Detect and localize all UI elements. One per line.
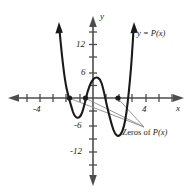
polynomial-curve	[60, 30, 134, 136]
curve-left-arrowhead	[55, 22, 62, 33]
y-tick-label-12: 12	[76, 40, 85, 49]
x-tick-label-minus-4: -4	[33, 105, 41, 114]
zeros-annotation-function: P(x)	[153, 127, 168, 137]
zeros-annotation: Zeros of P(x)	[122, 128, 167, 137]
polynomial-graph-figure: y x 12 6 -6 -12 -4 4 y = P(x) Zeros of P…	[0, 0, 192, 192]
y-tick-label-6: 6	[81, 68, 86, 77]
x-axis	[8, 94, 184, 102]
zeros-annotation-prefix: Zeros of	[122, 127, 153, 137]
y-axis-label: y	[100, 12, 104, 21]
y-tick-label-minus-6: -6	[74, 121, 82, 130]
x-axis-label: x	[176, 104, 180, 113]
zero-point-1	[67, 95, 72, 100]
x-tick-label-4: 4	[142, 105, 147, 114]
zero-point-2	[83, 95, 88, 100]
y-tick-label-minus-12: -12	[70, 147, 82, 156]
zero-point-3	[115, 95, 120, 100]
curve-label: y = P(x)	[137, 29, 165, 38]
